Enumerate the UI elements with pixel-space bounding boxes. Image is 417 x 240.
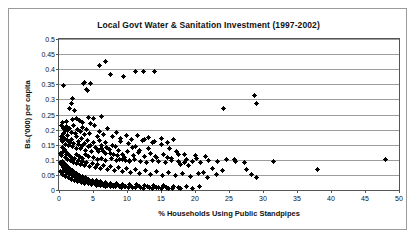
- x-tick-label: 10: [123, 195, 131, 202]
- data-point: [316, 168, 319, 171]
- data-point: [221, 169, 224, 172]
- data-point: [79, 147, 82, 150]
- data-point: [222, 107, 225, 110]
- x-tick-mark: [127, 190, 128, 193]
- data-point: [207, 159, 210, 162]
- data-point: [384, 158, 387, 161]
- data-point: [77, 140, 80, 143]
- data-point: [131, 146, 134, 149]
- data-point: [122, 75, 125, 78]
- data-point: [71, 97, 74, 100]
- y-tick-mark: [56, 130, 59, 131]
- data-point: [126, 150, 129, 153]
- chart-frame: Local Govt Water & Sanitation Investment…: [8, 8, 407, 230]
- data-point: [170, 159, 173, 162]
- data-point: [253, 94, 256, 97]
- data-point: [94, 166, 97, 169]
- data-point: [136, 134, 139, 137]
- data-point: [198, 185, 201, 188]
- data-point: [166, 156, 169, 159]
- x-tick-label: 40: [327, 195, 335, 202]
- y-tick-label: 0.5: [45, 36, 55, 43]
- data-point: [81, 121, 84, 124]
- data-point: [114, 145, 117, 148]
- data-point: [164, 161, 167, 164]
- data-point: [117, 166, 120, 169]
- y-tick-mark: [56, 39, 59, 40]
- data-point: [185, 185, 188, 188]
- data-point: [109, 165, 112, 168]
- data-point: [75, 147, 78, 150]
- data-point: [125, 167, 128, 170]
- gridline-horizontal: [59, 69, 399, 70]
- data-point: [245, 168, 248, 171]
- data-point: [177, 153, 180, 156]
- data-point: [102, 150, 105, 153]
- data-point: [70, 138, 73, 141]
- data-point: [98, 64, 101, 67]
- data-point: [133, 158, 136, 161]
- data-point: [66, 134, 69, 137]
- data-point: [88, 165, 91, 168]
- gridline-horizontal: [59, 115, 399, 116]
- data-point: [81, 157, 84, 160]
- data-point: [191, 187, 194, 190]
- data-point: [102, 164, 105, 167]
- data-point: [117, 149, 120, 152]
- data-point: [143, 138, 146, 141]
- data-point: [80, 137, 83, 140]
- data-point: [146, 185, 149, 188]
- data-point: [155, 170, 158, 173]
- x-tick-mark: [297, 190, 298, 193]
- data-point: [181, 172, 184, 175]
- data-point: [100, 144, 103, 147]
- data-point: [149, 152, 152, 155]
- data-point: [105, 146, 108, 149]
- y-tick-label: 0.3: [45, 96, 55, 103]
- chart-title: Local Govt Water & Sanitation Investment…: [9, 20, 408, 30]
- data-point: [99, 167, 102, 170]
- gridline-horizontal: [59, 99, 399, 100]
- data-point: [139, 160, 142, 163]
- data-point: [75, 135, 78, 138]
- y-tick-label: 0.15: [41, 141, 55, 148]
- data-point: [179, 163, 182, 166]
- data-point: [175, 150, 178, 153]
- data-point: [195, 157, 198, 160]
- data-point: [96, 163, 99, 166]
- data-point: [60, 135, 63, 138]
- x-tick-mark: [229, 190, 230, 193]
- data-point: [83, 142, 86, 145]
- y-tick-label: 0: [51, 187, 55, 194]
- x-axis-label: % Households Using Public Standpipes: [58, 209, 400, 218]
- gridline-horizontal: [59, 130, 399, 131]
- data-point: [71, 118, 74, 121]
- data-point: [145, 161, 148, 164]
- data-point: [155, 186, 158, 189]
- data-point: [96, 148, 99, 151]
- x-tick-label: 20: [191, 195, 199, 202]
- y-tick-mark: [56, 145, 59, 146]
- data-point: [89, 122, 92, 125]
- data-point: [72, 124, 75, 127]
- data-point: [68, 107, 71, 110]
- y-tick-label: 0.4: [45, 66, 55, 73]
- data-point: [116, 154, 119, 157]
- data-point: [85, 161, 88, 164]
- gridline-horizontal: [59, 84, 399, 85]
- data-point: [70, 102, 73, 105]
- data-point: [88, 132, 91, 135]
- data-point: [125, 134, 128, 137]
- data-point: [189, 175, 192, 178]
- y-tick-label: 0.2: [45, 126, 55, 133]
- data-point: [215, 173, 218, 176]
- data-point: [100, 115, 103, 118]
- data-point: [121, 158, 124, 161]
- data-point: [165, 186, 168, 189]
- x-tick-mark: [195, 190, 196, 193]
- data-point: [91, 162, 94, 165]
- data-point: [149, 173, 152, 176]
- data-point: [233, 158, 236, 161]
- data-point: [167, 171, 170, 174]
- y-tick-mark: [56, 54, 59, 55]
